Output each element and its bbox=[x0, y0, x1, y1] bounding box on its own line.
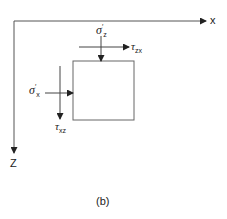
sigma-x-label: σ′x bbox=[29, 83, 40, 98]
x-axis-label: x bbox=[210, 14, 216, 26]
tau-zx-label: τzx bbox=[131, 40, 142, 54]
figure-caption: (b) bbox=[96, 195, 109, 207]
z-axis-label: Z bbox=[10, 157, 17, 169]
tau-xz-label: τxz bbox=[55, 120, 66, 134]
stress-element bbox=[73, 61, 134, 120]
stress-diagram-canvas bbox=[0, 0, 227, 219]
sigma-z-label: σ′z bbox=[96, 23, 107, 38]
